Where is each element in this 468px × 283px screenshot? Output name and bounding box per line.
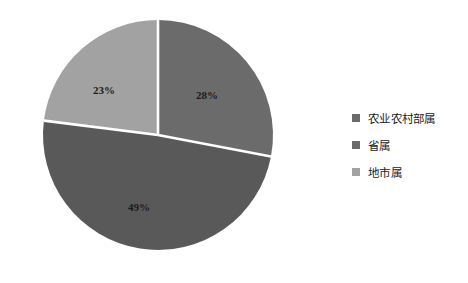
legend-item-label: 农业农村部属 (368, 110, 436, 126)
pie-svg (0, 0, 320, 283)
pie-chart-figure: 28% 49% 23% 农业农村部属 省属 地市属 (0, 0, 468, 283)
pie-slice-value-label: 28% (196, 89, 218, 101)
pie-slice-value-label: 23% (93, 84, 115, 96)
legend-item-label: 地市属 (368, 164, 402, 180)
legend-swatch-icon (352, 168, 360, 176)
legend-item-nongyenongcunbushu[interactable]: 农业农村部属 (352, 104, 464, 131)
legend-item-shengshu[interactable]: 省属 (352, 131, 464, 158)
pie-slice-dishishu[interactable] (44, 20, 158, 135)
legend-item-dishishu[interactable]: 地市属 (352, 158, 464, 185)
legend-swatch-icon (352, 114, 360, 122)
pie-plot-area: 28% 49% 23% (0, 0, 320, 283)
legend-swatch-icon (352, 141, 360, 149)
chart-legend: 农业农村部属 省属 地市属 (352, 104, 464, 185)
pie-slice-value-label: 49% (128, 201, 150, 213)
legend-item-label: 省属 (368, 137, 391, 153)
